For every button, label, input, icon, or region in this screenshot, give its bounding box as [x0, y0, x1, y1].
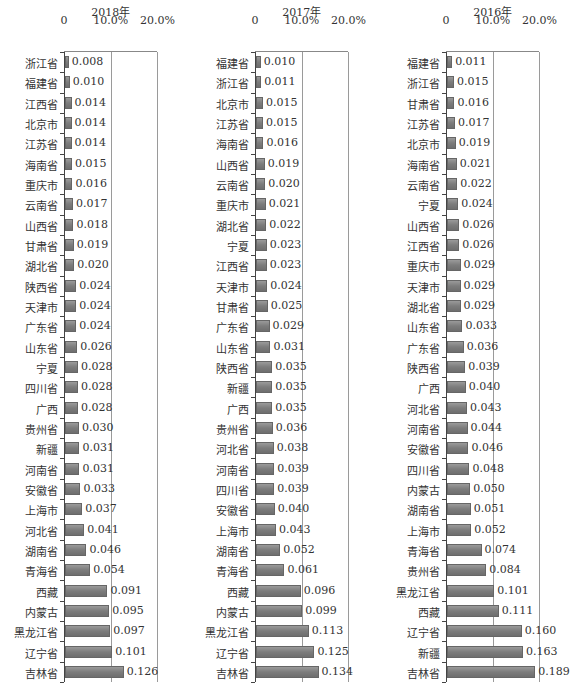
bar [447, 56, 452, 68]
category-label: 湖南省 [382, 502, 440, 518]
y-tick [442, 682, 446, 683]
y-tick [442, 479, 446, 480]
y-tick [442, 438, 446, 439]
bar [447, 198, 458, 210]
bar [447, 666, 535, 678]
y-tick [442, 377, 446, 378]
bar [447, 463, 469, 475]
value-label: 0.029 [464, 258, 496, 271]
y-tick [442, 458, 446, 459]
bar [447, 605, 499, 617]
bar [447, 442, 468, 454]
y-tick [442, 621, 446, 622]
value-label: 0.046 [471, 441, 503, 454]
value-label: 0.026 [462, 218, 494, 231]
y-tick [442, 113, 446, 114]
category-label: 青海省 [382, 543, 440, 559]
category-label: 内蒙古 [382, 482, 440, 498]
value-label: 0.050 [473, 482, 505, 495]
value-label: 0.039 [468, 360, 500, 373]
bar [447, 341, 464, 353]
value-label: 0.052 [474, 523, 506, 536]
category-label: 江苏省 [382, 116, 440, 132]
category-label: 山东省 [382, 319, 440, 335]
value-label: 0.044 [471, 421, 503, 434]
bar [447, 564, 486, 576]
y-tick [442, 174, 446, 175]
bar [447, 544, 482, 556]
category-label: 陕西省 [382, 360, 440, 376]
category-label: 湖北省 [382, 299, 440, 315]
bar [447, 76, 454, 88]
category-label: 宁夏 [382, 197, 440, 213]
category-label: 河南省 [382, 421, 440, 437]
y-tick [442, 601, 446, 602]
category-label: 重庆市 [382, 258, 440, 274]
gridline [539, 52, 540, 682]
value-label: 0.084 [489, 563, 521, 576]
y-tick [442, 662, 446, 663]
value-label: 0.074 [485, 543, 517, 556]
bar [447, 585, 494, 597]
value-label: 0.019 [459, 136, 491, 149]
category-label: 黑龙江省 [382, 584, 440, 600]
category-label: 辽宁省 [382, 624, 440, 640]
value-label: 0.036 [467, 340, 499, 353]
y-tick [442, 154, 446, 155]
bar [447, 503, 471, 515]
bar [447, 219, 459, 231]
value-label: 0.160 [525, 624, 557, 637]
value-label: 0.111 [502, 604, 534, 617]
y-tick [442, 540, 446, 541]
category-label: 北京市 [382, 136, 440, 152]
value-label: 0.029 [464, 299, 496, 312]
bar [447, 97, 454, 109]
category-label: 四川省 [382, 462, 440, 478]
value-label: 0.029 [464, 279, 496, 292]
value-label: 0.043 [470, 401, 502, 414]
y-tick [442, 560, 446, 561]
value-label: 0.022 [460, 177, 492, 190]
x-tick-label: 0 [443, 14, 450, 27]
y-tick [442, 641, 446, 642]
y-tick [442, 337, 446, 338]
category-label: 浙江省 [382, 75, 440, 91]
chart-panel-2016年: 2016年010.0%20.0%福建省0.011浙江省0.015甘肃省0.016… [0, 0, 582, 696]
value-label: 0.048 [472, 462, 504, 475]
value-label: 0.011 [455, 55, 487, 68]
category-label: 广东省 [382, 340, 440, 356]
y-tick [442, 72, 446, 73]
y-tick [442, 215, 446, 216]
bar [447, 381, 466, 393]
bar [447, 158, 457, 170]
value-label: 0.033 [465, 319, 497, 332]
category-label: 新疆 [382, 645, 440, 661]
y-tick [442, 133, 446, 134]
bar [447, 320, 462, 332]
category-label: 吉林省 [382, 665, 440, 681]
category-label: 云南省 [382, 177, 440, 193]
value-label: 0.189 [538, 665, 570, 678]
bar [447, 280, 461, 292]
x-tick-label: 20.0% [522, 14, 557, 27]
value-label: 0.040 [469, 380, 501, 393]
value-label: 0.017 [458, 116, 490, 129]
value-label: 0.021 [460, 157, 492, 170]
y-tick [442, 194, 446, 195]
category-label: 山西省 [382, 218, 440, 234]
category-label: 广西 [382, 380, 440, 396]
value-label: 0.024 [461, 197, 493, 210]
value-label: 0.163 [526, 645, 558, 658]
y-tick [442, 580, 446, 581]
bar [447, 178, 457, 190]
bar [447, 300, 461, 312]
bar [447, 625, 522, 637]
value-label: 0.026 [462, 238, 494, 251]
value-label: 0.016 [457, 96, 489, 109]
y-tick [442, 93, 446, 94]
value-label: 0.051 [474, 502, 506, 515]
category-label: 贵州省 [382, 563, 440, 579]
y-tick [442, 418, 446, 419]
category-label: 天津市 [382, 279, 440, 295]
bar [447, 402, 467, 414]
